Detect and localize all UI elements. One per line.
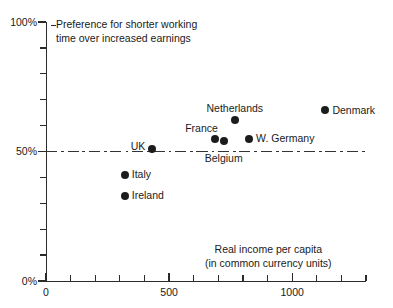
data-point — [321, 106, 329, 114]
point-label: Belgium — [205, 153, 243, 164]
x-tick-1300 — [365, 275, 366, 281]
y-tick-90 — [40, 47, 46, 48]
data-point — [245, 135, 253, 143]
x-tick-100 — [70, 275, 71, 281]
point-label: UK — [131, 141, 146, 152]
y-tick-10 — [40, 254, 46, 255]
data-point — [220, 137, 228, 145]
x-axis-caption: Real income per capita (in common curren… — [205, 243, 332, 270]
y-tick-label-0: 0% — [22, 276, 37, 287]
y-tick-70 — [40, 99, 46, 100]
x-tick-1200 — [341, 275, 342, 281]
x-tick-1000 — [292, 273, 293, 281]
point-label: Denmark — [332, 105, 375, 116]
x-tick-700 — [218, 275, 219, 281]
x-tick-600 — [193, 275, 194, 281]
point-label: Netherlands — [206, 103, 263, 114]
scatter-chart: 0%50%100%05001000 Preference for shorter… — [0, 0, 393, 308]
x-tick-0 — [45, 273, 46, 281]
point-label: Italy — [132, 169, 151, 180]
y-tick-label-50: 50% — [16, 146, 37, 157]
x-tick-label-1000: 1000 — [280, 287, 303, 298]
y-tick-30 — [40, 203, 46, 204]
x-tick-900 — [267, 275, 268, 281]
x-tick-300 — [119, 275, 120, 281]
y-tick-50 — [38, 151, 46, 152]
data-point — [121, 192, 129, 200]
x-tick-label-0: 0 — [43, 287, 49, 298]
y-tick-100 — [38, 21, 46, 22]
point-label: Ireland — [132, 190, 164, 201]
point-label: W. Germany — [256, 133, 314, 144]
x-tick-500 — [168, 273, 169, 281]
y-tick-label-100: 100% — [10, 17, 37, 28]
y-tick-20 — [40, 229, 46, 230]
data-point — [121, 171, 129, 179]
data-point — [231, 116, 239, 124]
data-point — [211, 135, 219, 143]
x-axis-line — [46, 281, 366, 282]
y-tick-80 — [40, 73, 46, 74]
x-tick-800 — [242, 275, 243, 281]
x-tick-400 — [144, 275, 145, 281]
x-tick-label-500: 500 — [160, 287, 178, 298]
x-tick-200 — [95, 275, 96, 281]
x-tick-1100 — [316, 275, 317, 281]
point-label: France — [185, 123, 218, 134]
y-tick-40 — [40, 177, 46, 178]
chart-title-annotation: Preference for shorter working time over… — [56, 18, 197, 45]
y-tick-60 — [40, 125, 46, 126]
